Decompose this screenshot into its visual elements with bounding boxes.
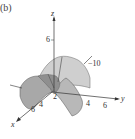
x-tick-2: 2	[53, 93, 57, 101]
x-tick-6: 6	[31, 106, 35, 114]
x-tick-4: 4	[39, 101, 43, 109]
surface-annotation: −10	[88, 60, 101, 68]
z-tick-6: 6	[46, 36, 50, 44]
surface-plot	[0, 0, 135, 139]
saddle-surface-figure: (b) z y x 6 −10 2 4 6 4 6	[0, 0, 135, 139]
z-axis-label: z	[51, 10, 54, 18]
y-axis-label: y	[121, 95, 125, 103]
y-tick-6: 6	[103, 102, 107, 110]
y-tick-4: 4	[86, 100, 90, 108]
x-axis-label: x	[11, 121, 15, 129]
panel-label: (b)	[0, 2, 12, 13]
